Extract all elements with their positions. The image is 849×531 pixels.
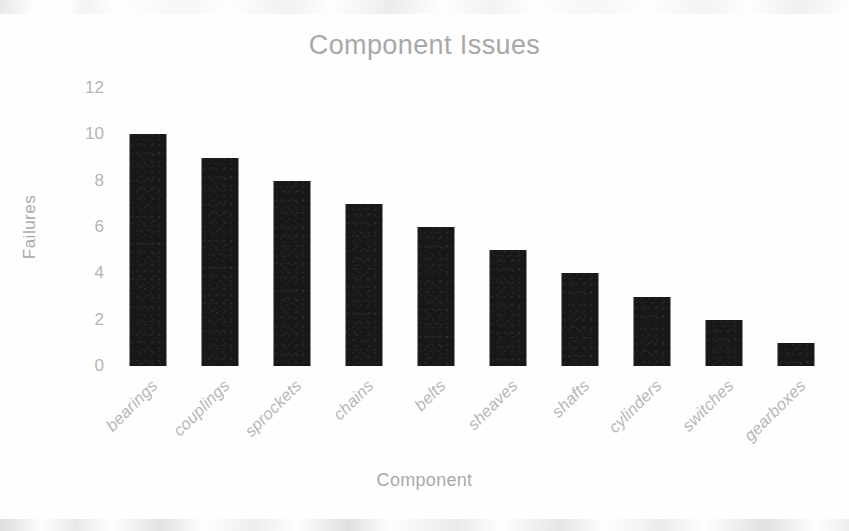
y-axis-tick-4: 4 <box>60 263 104 283</box>
bar-slot <box>112 88 184 366</box>
bar-series <box>112 88 828 366</box>
x-axis-tick-belts: belts <box>411 376 450 415</box>
plot-area <box>112 88 828 366</box>
scan-artifact-top <box>0 0 849 14</box>
x-axis-tick-sheaves: sheaves <box>464 376 522 434</box>
bar-shafts[interactable] <box>562 273 599 366</box>
bar-slot <box>688 88 760 366</box>
bar-slot <box>760 88 832 366</box>
bar-slot <box>472 88 544 366</box>
x-tick-slot: bearings <box>112 370 184 460</box>
chart-canvas: Component Issues Failures 121086420 bear… <box>0 0 849 531</box>
bar-couplings[interactable] <box>202 158 239 367</box>
x-tick-slot: gearboxes <box>760 370 832 460</box>
bar-sprockets[interactable] <box>274 181 311 366</box>
x-axis-tick-chains: chains <box>329 376 377 424</box>
x-axis-title: Component <box>0 470 849 491</box>
bar-gearboxes[interactable] <box>778 343 815 366</box>
bar-chains[interactable] <box>346 204 383 366</box>
x-tick-slot: chains <box>328 370 400 460</box>
x-tick-slot: sheaves <box>472 370 544 460</box>
bar-slot <box>328 88 400 366</box>
x-axis-tick-switches: switches <box>678 376 737 435</box>
bar-belts[interactable] <box>418 227 455 366</box>
y-axis-tick-labels: 121086420 <box>60 88 104 366</box>
y-axis-tick-10: 10 <box>60 124 104 144</box>
x-axis-tick-labels: bearingscouplingssprocketschainsbeltsshe… <box>112 370 828 460</box>
bar-cylinders[interactable] <box>634 297 671 367</box>
x-axis-tick-bearings: bearings <box>102 376 161 435</box>
bar-bearings[interactable] <box>130 134 167 366</box>
bar-sheaves[interactable] <box>490 250 527 366</box>
x-tick-slot: sprockets <box>256 370 328 460</box>
y-axis-tick-8: 8 <box>60 171 104 191</box>
bar-slot <box>400 88 472 366</box>
bar-slot <box>616 88 688 366</box>
x-tick-slot: couplings <box>184 370 256 460</box>
x-tick-slot: cylinders <box>616 370 688 460</box>
chart-title: Component Issues <box>0 30 849 61</box>
bar-slot <box>544 88 616 366</box>
x-tick-slot: shafts <box>544 370 616 460</box>
y-axis-tick-2: 2 <box>60 310 104 330</box>
scan-artifact-bottom <box>0 519 849 531</box>
x-tick-slot: belts <box>400 370 472 460</box>
y-axis-tick-6: 6 <box>60 217 104 237</box>
y-axis-title: Failures <box>20 195 40 259</box>
y-axis-tick-0: 0 <box>60 356 104 376</box>
x-tick-slot: switches <box>688 370 760 460</box>
x-axis-tick-shafts: shafts <box>548 376 593 421</box>
y-axis-tick-12: 12 <box>60 78 104 98</box>
bar-switches[interactable] <box>706 320 743 366</box>
bar-slot <box>256 88 328 366</box>
bar-slot <box>184 88 256 366</box>
